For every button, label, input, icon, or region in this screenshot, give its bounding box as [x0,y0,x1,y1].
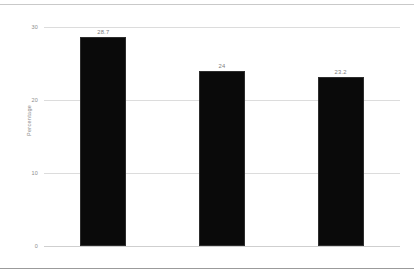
bar-value-neutral: 23.2 [335,69,347,75]
bar-series: 28.7 24 23.2 [44,27,400,246]
bar-slot-pan-blue: 28.7 [44,27,163,246]
bar-value-pan-blue: 28.7 [97,29,109,35]
y-tick-label-30: 30 [31,24,38,30]
page-rule-top [0,4,414,5]
bar-chart-figure: Percentage 30 20 10 0 28.7 24 2 [0,0,414,276]
bar-pan-blue[interactable] [80,37,126,247]
bar-slot-neutral: 23.2 [281,27,400,246]
bar-value-pan-green: 24 [218,63,225,69]
y-tick-label-0: 0 [35,243,38,249]
y-tick-label-20: 20 [31,97,38,103]
y-axis-label: Percentage [26,105,32,136]
bar-neutral[interactable] [318,77,364,246]
bar-slot-pan-green: 24 [163,27,282,246]
y-tick-label-10: 10 [31,170,38,176]
gridline-0: 0 [44,246,400,247]
bar-pan-green[interactable] [199,71,245,246]
plot-area: 30 20 10 0 28.7 24 23.2 Pan-B [44,27,400,246]
page-rule-bottom [0,268,414,269]
